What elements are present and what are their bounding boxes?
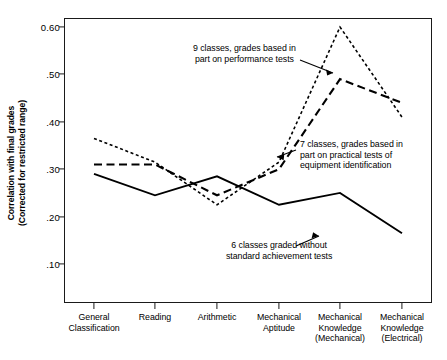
x-tick-label-line: General (79, 312, 110, 322)
x-tick-label-line: Reading (139, 312, 171, 322)
x-tick-label-line: Mechanical (380, 312, 424, 322)
x-tick-label-line: (Mechanical) (315, 333, 365, 343)
y-axis-title-line-1: Correlation with final grades (6, 106, 16, 221)
y-tick-label: .50 (46, 69, 60, 80)
y-tick-label: 0.60 (41, 22, 60, 33)
y-axis-title-line-2: (Corrected for restricted range) (17, 100, 27, 226)
x-tick-label-mechanical-knowledge-electrical: Mechanical Knowledge (Electrical) (359, 312, 445, 344)
x-tick-mark (93, 303, 94, 309)
y-tick-mark (59, 121, 65, 122)
x-tick-label-line: Aptitude (263, 323, 295, 333)
y-tick-mark (59, 73, 65, 74)
annotation-7-classes: 7 classes, grades based in part on pract… (300, 139, 403, 171)
annotation-9-classes: 9 classes, grades based in part on perfo… (193, 43, 296, 64)
y-axis-title-text: Correlation with final grades (Corrected… (6, 78, 27, 248)
y-tick-mark (59, 26, 65, 27)
annotation-6-classes: 6 classes graded without standard achiev… (226, 240, 332, 261)
y-tick-mark (59, 168, 65, 169)
x-axis: General Classification Reading Arithmeti… (0, 303, 447, 360)
x-tick-mark (339, 303, 340, 309)
x-tick-label-line: Knowledge (318, 323, 361, 333)
chart-root: 0.60 .50 .40 .30 .20 .10 Correlation wit… (0, 0, 447, 360)
y-tick-label: .20 (46, 212, 60, 223)
x-tick-label-line: Knowledge (380, 323, 423, 333)
x-tick-mark (154, 303, 155, 309)
y-tick-mark (59, 216, 65, 217)
x-tick-mark (216, 303, 217, 309)
x-tick-label-line: Mechanical (318, 312, 362, 322)
y-tick-label: .10 (46, 259, 60, 270)
x-tick-label-line: (Electrical) (382, 333, 423, 343)
x-tick-label-line: Arithmetic (198, 312, 237, 322)
y-tick-label: .40 (46, 117, 60, 128)
x-tick-label-line: Classification (68, 323, 119, 333)
x-tick-mark (401, 303, 402, 309)
y-tick-mark (59, 263, 65, 264)
x-tick-label-line: Mechanical (257, 312, 301, 322)
x-tick-mark (278, 303, 279, 309)
y-tick-label: .30 (46, 164, 60, 175)
